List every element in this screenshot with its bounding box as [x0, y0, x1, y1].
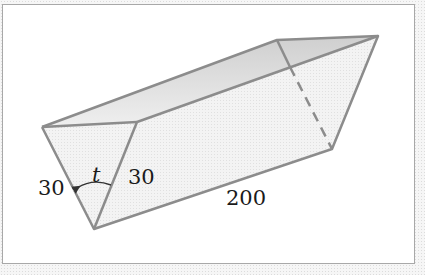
prism-diagram: t 30 30 200 — [0, 0, 425, 275]
left-side-label: 30 — [38, 176, 65, 200]
length-label: 200 — [226, 186, 266, 210]
right-side-label: 30 — [128, 165, 155, 189]
angle-label: t — [92, 163, 101, 187]
